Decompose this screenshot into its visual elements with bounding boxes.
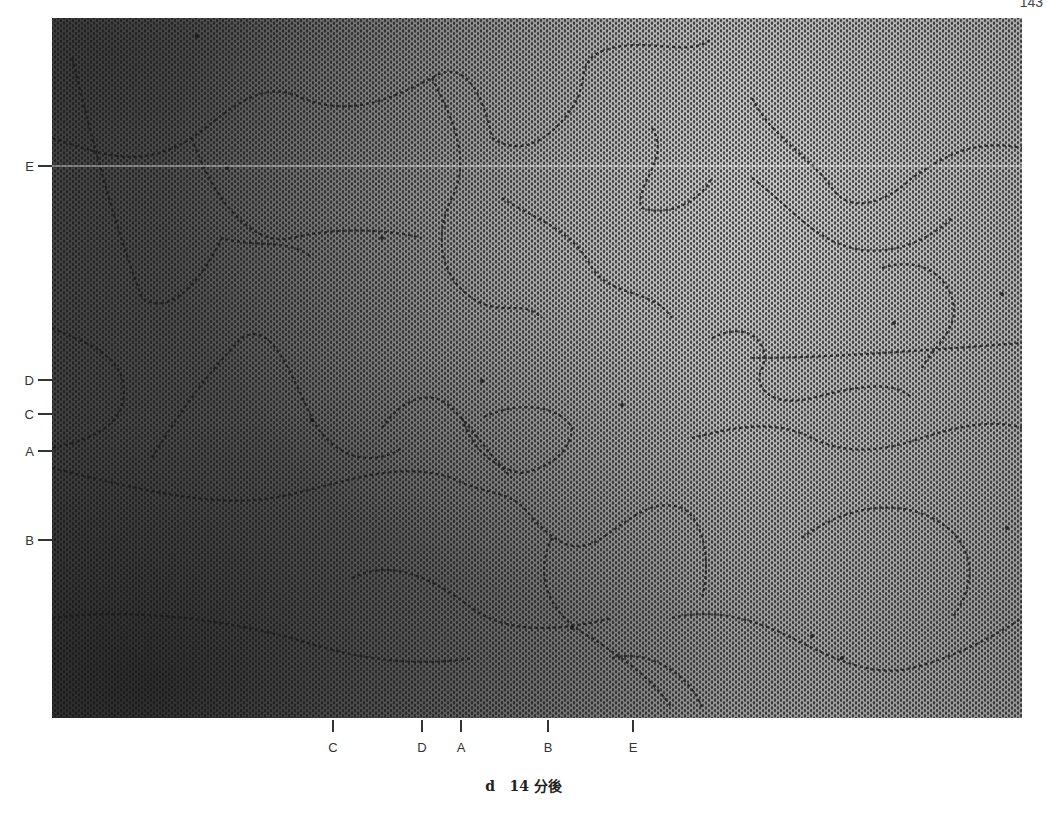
marker-label: E — [629, 740, 638, 755]
bottom-marker-c: C — [325, 718, 341, 755]
bottom-marker-e: E — [625, 718, 641, 755]
left-marker-a: A — [0, 443, 52, 459]
bottom-marker-b: B — [540, 718, 556, 755]
marker-label: A — [25, 444, 34, 459]
marker-label: B — [25, 533, 34, 548]
tick-line — [38, 450, 52, 452]
tick-line — [38, 165, 52, 167]
micrograph-image — [52, 18, 1022, 718]
marker-label: A — [457, 740, 466, 755]
figure-time: 14 分後 — [509, 778, 561, 794]
figure-caption: d 14 分後 — [0, 775, 1047, 795]
bottom-marker-d: D — [414, 718, 430, 755]
left-marker-e: E — [0, 158, 52, 174]
grain-boundaries — [52, 18, 1022, 718]
left-marker-d: D — [0, 372, 52, 388]
marker-label: D — [417, 740, 426, 755]
bottom-marker-a: A — [453, 718, 469, 755]
tick-line — [38, 413, 52, 415]
marker-label: C — [328, 740, 337, 755]
figure-letter: d — [485, 778, 495, 794]
tick-line — [332, 720, 334, 732]
marker-label: D — [25, 373, 34, 388]
tick-line — [460, 720, 462, 732]
left-marker-b: B — [0, 532, 52, 548]
marker-label: B — [544, 740, 553, 755]
marker-label: E — [25, 159, 34, 174]
tick-line — [421, 720, 423, 732]
tick-line — [38, 379, 52, 381]
tick-line — [38, 539, 52, 541]
left-marker-c: C — [0, 406, 52, 422]
page-number: 143 — [1020, 0, 1043, 10]
tick-line — [632, 720, 634, 732]
marker-label: C — [25, 407, 34, 422]
tick-line — [547, 720, 549, 732]
